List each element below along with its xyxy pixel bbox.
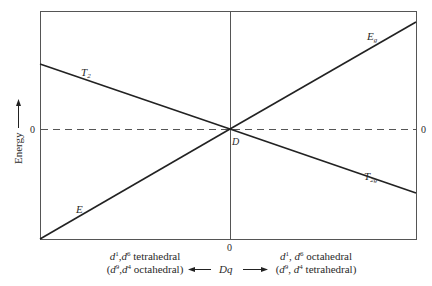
eg-label: Eg — [366, 30, 378, 44]
t2g-label: T2g — [364, 170, 378, 184]
t2g-line — [230, 129, 416, 193]
right-caption-line1: d1, d6 octahedral — [268, 250, 364, 263]
left-caption-line2: (d9,d4 octahedral) — [100, 263, 190, 276]
eg-line — [230, 22, 416, 129]
d-point-label: D — [231, 136, 240, 147]
right-caption: d1, d6 octahedral (d9, d4 tetrahedral) — [268, 250, 364, 276]
zero-label-left: 0 — [30, 124, 35, 135]
energy-level-diagram: T2 E Eg T2g D 0 0 0 Energy Dq — [0, 0, 432, 286]
e-line — [40, 129, 230, 239]
energy-axis-label: Energy — [12, 132, 24, 164]
zero-label-bottom: 0 — [227, 242, 232, 253]
arrow-up-icon — [16, 99, 21, 106]
e-label: E — [75, 203, 83, 215]
t2-label: T2 — [81, 66, 91, 80]
energy-axis: Energy — [12, 99, 24, 164]
dq-axis: Dq — [188, 263, 268, 275]
left-caption: d1,d6 tetrahedral (d9,d4 octahedral) — [100, 250, 190, 276]
zero-label-right: 0 — [421, 124, 426, 135]
arrow-right-icon — [261, 267, 268, 272]
right-caption-line2: (d9, d4 tetrahedral) — [268, 263, 364, 276]
t2-line — [40, 64, 230, 129]
dq-label: Dq — [218, 263, 233, 275]
left-caption-line1: d1,d6 tetrahedral — [100, 250, 190, 263]
